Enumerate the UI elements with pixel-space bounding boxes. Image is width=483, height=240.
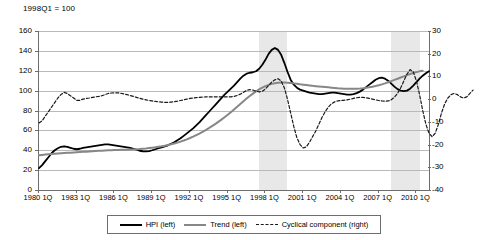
y-tick-mark	[428, 76, 431, 77]
y-tick-mark	[428, 190, 431, 191]
x-tick-label: 1995 1Q	[212, 193, 241, 202]
legend-swatch-cyclical-icon	[256, 224, 278, 225]
y-tick-mark	[35, 31, 38, 32]
y-tick-mark	[428, 99, 431, 100]
x-tick-label: 2004 1Q	[326, 193, 355, 202]
y-tick-mark	[35, 170, 38, 171]
y-tick-label-right: 10	[432, 72, 466, 80]
x-tick-label: 1980 1Q	[24, 193, 53, 202]
y-tick-label-left: 20	[2, 166, 32, 174]
chart-legend: HPI (left) Trend (left) Cyclical compone…	[107, 215, 381, 234]
y-tick-label-right: 0	[432, 95, 466, 103]
chart-title: 1998Q1 = 100	[23, 4, 75, 13]
y-tick-label-left: 60	[2, 126, 32, 134]
y-tick-label-left: 160	[2, 27, 32, 35]
y-tick-label-right: 30	[432, 27, 466, 35]
y-tick-label-left: 100	[2, 87, 32, 95]
x-tick-mark	[378, 190, 379, 193]
y-tick-mark	[428, 54, 431, 55]
y-tick-mark	[35, 111, 38, 112]
x-tick-mark	[264, 190, 265, 193]
y-tick-mark	[35, 130, 38, 131]
series-lines	[39, 31, 429, 190]
x-tick-mark	[227, 190, 228, 193]
x-tick-mark	[38, 190, 39, 193]
legend-label-cyclical: Cyclical component (right)	[282, 220, 369, 229]
series-cyclical-component-right	[39, 70, 473, 148]
legend-item-trend: Trend (left)	[184, 220, 246, 229]
x-tick-mark	[113, 190, 114, 193]
x-tick-label: 1986 1Q	[99, 193, 128, 202]
y-tick-mark	[428, 167, 431, 168]
x-tick-mark	[302, 190, 303, 193]
y-tick-mark	[428, 145, 431, 146]
plot-area	[38, 31, 430, 191]
x-tick-label: 1992 1Q	[175, 193, 204, 202]
y-tick-label-right: -10	[432, 118, 466, 126]
y-tick-label-left: 40	[2, 146, 32, 154]
x-tick-mark	[189, 190, 190, 193]
y-tick-label-left: 140	[2, 47, 32, 55]
x-tick-mark	[340, 190, 341, 193]
series-trend-left	[39, 71, 423, 155]
x-tick-label: 1998 1Q	[250, 193, 279, 202]
x-tick-mark	[76, 190, 77, 193]
chart-figure: 1998Q1 = 100 020406080100120140160 30201…	[0, 0, 483, 240]
y-tick-mark	[35, 91, 38, 92]
x-tick-label: 1983 1Q	[61, 193, 90, 202]
legend-swatch-trend-icon	[184, 224, 206, 226]
y-tick-mark	[428, 122, 431, 123]
y-tick-mark	[35, 71, 38, 72]
y-tick-mark	[428, 31, 431, 32]
x-tick-mark	[151, 190, 152, 193]
y-tick-label-left: 80	[2, 107, 32, 115]
x-tick-mark	[415, 190, 416, 193]
y-tick-label-right: -30	[432, 163, 466, 171]
x-tick-label: 1989 1Q	[137, 193, 166, 202]
legend-label-hpi: HPI (left)	[146, 220, 176, 229]
legend-item-cyclical: Cyclical component (right)	[256, 220, 369, 229]
y-tick-label-right: -20	[432, 141, 466, 149]
y-tick-label-right: -40	[432, 186, 466, 194]
x-tick-label: 2007 1Q	[363, 193, 392, 202]
legend-item-hpi: HPI (left)	[120, 220, 176, 229]
legend-label-trend: Trend (left)	[210, 220, 246, 229]
y-tick-label-left: 120	[2, 67, 32, 75]
y-tick-label-right: 20	[432, 50, 466, 58]
x-tick-label: 2010 1Q	[401, 193, 430, 202]
y-tick-mark	[35, 51, 38, 52]
legend-swatch-hpi-icon	[120, 224, 142, 226]
x-tick-label: 2001 1Q	[288, 193, 317, 202]
y-tick-mark	[35, 150, 38, 151]
